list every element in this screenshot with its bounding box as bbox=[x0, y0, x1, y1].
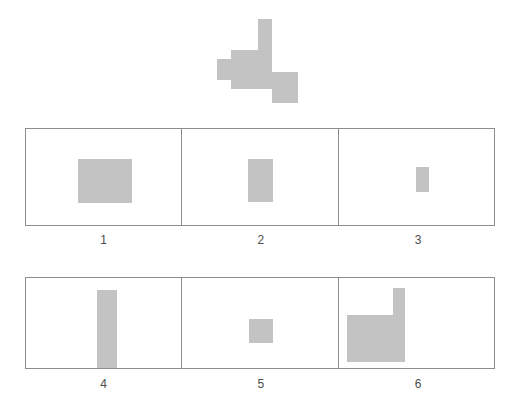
option-label-5: 5 bbox=[182, 376, 339, 392]
puzzle-canvas: 1 2 3 4 5 6 bbox=[0, 0, 527, 409]
option-labels-bottom: 4 5 6 bbox=[25, 376, 497, 392]
option-row-top bbox=[25, 128, 497, 226]
option-box-6[interactable] bbox=[338, 277, 495, 369]
option-shape-1 bbox=[78, 159, 132, 203]
option-box-4[interactable] bbox=[25, 277, 182, 369]
option-row-bottom bbox=[25, 277, 497, 369]
option-label-1: 1 bbox=[25, 232, 182, 248]
target-shape-polygon bbox=[217, 19, 298, 103]
option-shape-5 bbox=[249, 319, 273, 343]
option-shape-4 bbox=[97, 290, 117, 368]
option-label-4: 4 bbox=[25, 376, 182, 392]
option-shape-6 bbox=[347, 288, 405, 362]
option-labels-top: 1 2 3 bbox=[25, 232, 497, 248]
option-label-2: 2 bbox=[182, 232, 339, 248]
option-shape-3 bbox=[416, 167, 429, 192]
option-box-2[interactable] bbox=[181, 128, 338, 226]
target-shape-svg bbox=[217, 19, 299, 104]
target-shape bbox=[217, 19, 299, 104]
option-box-3[interactable] bbox=[338, 128, 495, 226]
option-box-5[interactable] bbox=[181, 277, 338, 369]
option-shape-2 bbox=[248, 159, 273, 202]
option-label-6: 6 bbox=[340, 376, 497, 392]
option-shape-6-polygon bbox=[347, 288, 405, 362]
option-label-3: 3 bbox=[340, 232, 497, 248]
option-box-1[interactable] bbox=[25, 128, 182, 226]
